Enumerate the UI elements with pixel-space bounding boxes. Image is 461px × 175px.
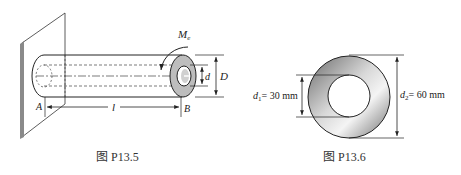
figure-p13-6: d1= 30 mm d2= 60 mm xyxy=(253,55,445,138)
label-D: D xyxy=(219,70,228,82)
label-l: l xyxy=(112,101,115,113)
moment-label: Me xyxy=(177,28,190,42)
label-A: A xyxy=(35,101,43,112)
label-d: d xyxy=(205,71,211,82)
figure-p13-5: Me D d l A B xyxy=(20,13,228,139)
figures-canvas: Me D d l A B xyxy=(0,0,461,175)
outer-diameter-dimension: D xyxy=(195,55,228,97)
label-d1: d1= 30 mm xyxy=(253,90,298,103)
label-d2: d2= 60 mm xyxy=(400,89,445,102)
label-B: B xyxy=(184,103,190,114)
caption-p13-6: 图 P13.6 xyxy=(323,147,366,165)
annular-cross-section xyxy=(308,56,390,138)
caption-p13-5: 图 P13.5 xyxy=(96,147,139,165)
